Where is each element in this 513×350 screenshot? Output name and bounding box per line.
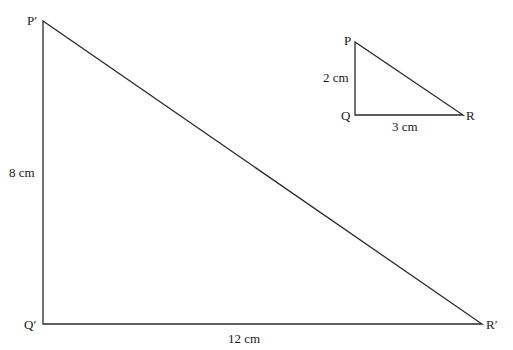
- label-large-horizontal-side: 12 cm: [228, 331, 260, 346]
- label-small-horizontal-side: 3 cm: [392, 119, 418, 134]
- diagram-canvas: P′ Q′ R′ 8 cm 12 cm P Q R 2 cm 3 cm: [0, 0, 513, 350]
- label-p: P: [344, 33, 351, 48]
- large-triangle: [43, 21, 482, 324]
- small-triangle: [355, 42, 463, 115]
- triangles-figure: P′ Q′ R′ 8 cm 12 cm P Q R 2 cm 3 cm: [0, 0, 513, 350]
- label-q: Q: [341, 108, 351, 123]
- label-r: R: [466, 108, 475, 123]
- label-p-prime: P′: [27, 13, 37, 28]
- label-q-prime: Q′: [24, 317, 36, 332]
- label-small-vertical-side: 2 cm: [323, 70, 349, 85]
- label-large-vertical-side: 8 cm: [9, 165, 35, 180]
- label-r-prime: R′: [486, 317, 498, 332]
